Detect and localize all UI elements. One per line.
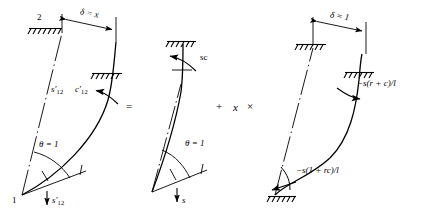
rotated-tangent-middle xyxy=(152,170,207,192)
rotation-tick2-left xyxy=(80,165,82,175)
support-top-middle xyxy=(166,42,196,48)
node-label-2: 2 xyxy=(37,13,42,22)
middle-panel-graphics xyxy=(152,42,207,203)
rotation-tick2-middle xyxy=(201,164,203,174)
equals-operator: = xyxy=(126,101,132,112)
moment-label-sc: sc xyxy=(200,53,208,62)
moment-label-c12-prime: c′12 xyxy=(75,85,88,95)
support-upper-right-left-panel xyxy=(91,74,122,80)
times-operator: × xyxy=(247,101,253,112)
shear-label-middle: s xyxy=(182,196,186,205)
moment-label-upper-right: −s(r + c)/l xyxy=(357,79,396,88)
rotation-tick-middle xyxy=(170,169,176,180)
plus-operator: + xyxy=(216,101,222,112)
left-panel-graphics xyxy=(22,14,122,205)
deformed-member-middle xyxy=(152,44,183,192)
structural-superposition-figure: 2 δ = x s′12 c′12 θ = 1 1 s′12 = sc θ = … xyxy=(0,0,421,213)
node-label-1: 1 xyxy=(12,196,17,205)
moment-arrow-bottom-right xyxy=(272,182,296,190)
figure-linework xyxy=(0,0,421,213)
moment-label-bottom-right: −s(1 + rc)/l xyxy=(296,166,339,175)
undeformed-axis-left xyxy=(22,33,62,195)
dim-arrow-delta-1 xyxy=(317,22,362,32)
rotation-tick-left xyxy=(42,171,48,181)
rotation-arc-middle xyxy=(162,150,190,178)
deformed-member-left xyxy=(22,42,116,195)
support-top-right-panel xyxy=(295,45,326,51)
support-node-2 xyxy=(28,29,62,35)
undeformed-axis-middle xyxy=(152,84,181,192)
multiplier-x: x xyxy=(233,102,238,113)
shear-label-left: s′12 xyxy=(52,196,64,206)
support-bottom-right-panel xyxy=(267,197,296,203)
moment-label-s12-prime: s′12 xyxy=(51,85,63,95)
rotation-label-theta-middle: θ = 1 xyxy=(185,139,205,148)
rotation-label-theta-left: θ = 1 xyxy=(39,140,59,149)
dim-arrow-delta-x xyxy=(66,20,112,30)
